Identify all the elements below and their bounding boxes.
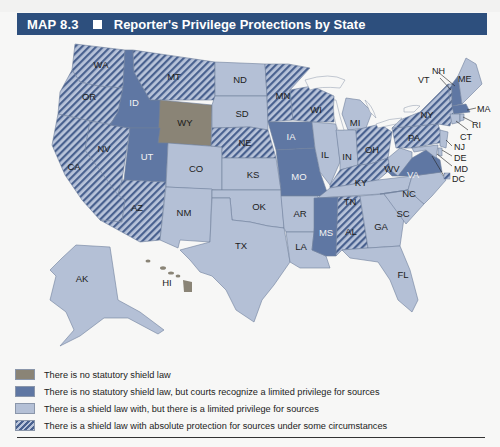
label-de: DE: [454, 153, 467, 163]
state-de: [438, 148, 442, 156]
label-il: IL: [321, 149, 329, 160]
label-wv: WV: [384, 163, 400, 174]
label-nh: NH: [432, 66, 445, 76]
map-legend: There is no statutory shield law There i…: [15, 366, 387, 434]
label-mo: MO: [291, 171, 306, 182]
label-hi: HI: [162, 277, 172, 288]
label-ut: UT: [141, 151, 154, 162]
label-la: LA: [295, 241, 307, 252]
label-pa: PA: [408, 132, 421, 143]
bottom-rule: [17, 437, 485, 438]
label-sc: SC: [396, 208, 409, 219]
label-nj: NJ: [454, 142, 465, 152]
label-ct: CT: [460, 132, 472, 142]
label-in: IN: [342, 151, 352, 162]
label-wi: WI: [310, 104, 322, 115]
label-ri: RI: [472, 120, 481, 130]
label-mt: MT: [167, 71, 181, 82]
label-ca: CA: [67, 161, 81, 172]
label-mn: MN: [276, 90, 291, 101]
swatch-absolute-hatch: [15, 420, 35, 431]
label-ak: AK: [76, 273, 89, 284]
legend-item-courts-privilege: There is no statutory shield law, but co…: [15, 383, 387, 400]
label-ma: MA: [477, 104, 491, 114]
us-map: WA OR CA NV ID MT WY UT AZ CO NM ND SD N…: [0, 36, 500, 361]
swatch-no-law: [15, 369, 35, 380]
label-nm: NM: [177, 207, 192, 218]
label-ia: IA: [287, 131, 297, 142]
label-nd: ND: [233, 74, 247, 85]
label-ok: OK: [252, 201, 266, 212]
label-fl: FL: [397, 269, 408, 280]
legend-label: There is no statutory shield law, but co…: [44, 387, 380, 397]
legend-item-absolute: There is a shield law with absolute prot…: [15, 417, 387, 434]
label-dc: DC: [452, 174, 465, 184]
label-ar: AR: [293, 208, 306, 219]
label-az: AZ: [131, 202, 143, 213]
label-me: ME: [458, 74, 472, 84]
state-ma: [452, 104, 470, 114]
label-ne: NE: [238, 137, 251, 148]
label-ms: MS: [319, 227, 333, 238]
label-tx: TX: [235, 240, 248, 251]
label-va: VA: [407, 169, 420, 180]
label-tn: TN: [344, 196, 357, 207]
label-nv: NV: [97, 143, 111, 154]
map-header: MAP 8.3 Reporter's Privilege Protections…: [17, 13, 487, 35]
page-bleed-text: [0, 0, 500, 12]
square-bullet-icon: [93, 20, 102, 29]
label-co: CO: [189, 163, 203, 174]
legend-label: There is no statutory shield law: [44, 370, 171, 380]
swatch-limited-privilege: [15, 403, 35, 414]
swatch-courts-privilege: [15, 386, 35, 397]
label-al: AL: [345, 226, 357, 237]
label-mi: MI: [350, 117, 361, 128]
state-ny: [392, 84, 454, 128]
label-ky: KY: [355, 177, 368, 188]
legend-item-limited-privilege: There is a shield law with, but there is…: [15, 400, 387, 417]
state-ct: [450, 114, 460, 124]
dc-swatch: [444, 173, 450, 179]
label-wa: WA: [94, 59, 110, 70]
map-number: MAP 8.3: [27, 17, 79, 32]
label-or: OR: [82, 91, 96, 102]
label-wy: WY: [177, 117, 193, 128]
label-id: ID: [129, 97, 139, 108]
legend-label: There is a shield law with absolute prot…: [44, 421, 387, 431]
label-ga: GA: [374, 221, 388, 232]
label-nc: NC: [402, 188, 416, 199]
map-title: Reporter's Privilege Protections by Stat…: [114, 17, 366, 32]
label-vt: VT: [418, 75, 430, 85]
legend-label: There is a shield law with, but there is…: [44, 404, 319, 414]
label-sd: SD: [235, 108, 248, 119]
label-md: MD: [454, 164, 468, 174]
label-oh: OH: [365, 144, 379, 155]
state-nj: [440, 130, 448, 148]
legend-item-no-law: There is no statutory shield law: [15, 366, 387, 383]
label-ny: NY: [420, 109, 434, 120]
label-ks: KS: [247, 169, 260, 180]
